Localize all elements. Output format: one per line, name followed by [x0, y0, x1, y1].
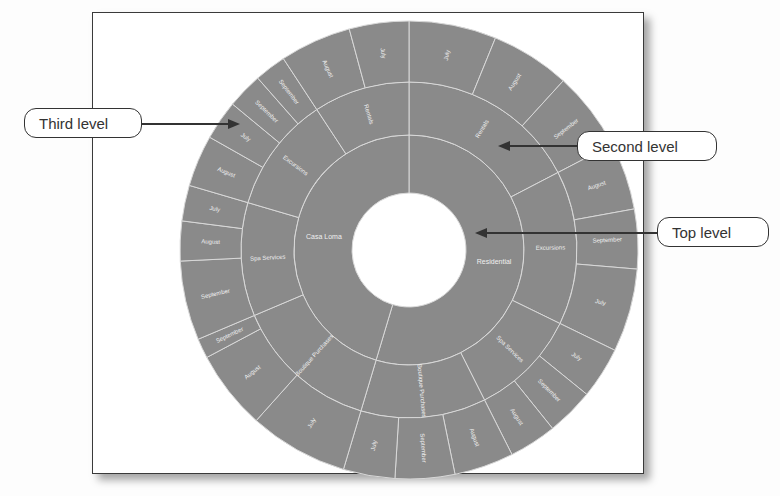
- top-level-arrow-icon: [475, 228, 487, 238]
- top-level-label: Casa Loma: [306, 233, 342, 240]
- third-level-label: August: [201, 238, 220, 245]
- third-level-leader: [142, 123, 232, 125]
- top-level-leader: [485, 232, 658, 234]
- callout-second-level: Second level: [577, 131, 717, 161]
- callout-top-level: Top level: [657, 217, 769, 247]
- second-level-arrow-icon: [498, 141, 510, 151]
- second-level-label: Excursions: [536, 245, 565, 251]
- second-level-leader: [508, 145, 578, 147]
- callout-third-level: Third level: [24, 108, 142, 138]
- sunburst-chart: ResidentialRentalsJulyAugustSeptemberExc…: [0, 0, 780, 496]
- third-level-arrow-icon: [228, 119, 240, 129]
- top-level-label: Residential: [477, 258, 512, 265]
